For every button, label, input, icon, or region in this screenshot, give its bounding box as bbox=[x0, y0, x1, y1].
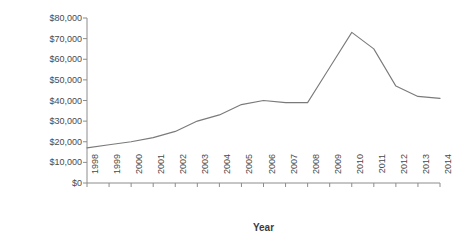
x-axis-tick-label: 2000 bbox=[135, 154, 144, 188]
x-axis-tick-label: 2003 bbox=[201, 154, 210, 188]
line-chart: Spending (in millions of dollars) $0$10,… bbox=[0, 0, 462, 241]
x-axis-tick-label: 1998 bbox=[91, 154, 100, 188]
x-axis-title: Year bbox=[87, 222, 440, 233]
x-axis-tick-label: 2010 bbox=[356, 154, 365, 188]
x-axis-tick-label: 2006 bbox=[268, 154, 277, 188]
plot-area bbox=[0, 0, 462, 241]
x-axis-tick-label: 2013 bbox=[422, 154, 431, 188]
x-axis-tick-label: 2005 bbox=[245, 154, 254, 188]
x-axis-tick-label: 2011 bbox=[378, 154, 387, 188]
spending-line-series bbox=[87, 32, 440, 147]
x-axis-tick-label: 2008 bbox=[312, 154, 321, 188]
x-axis-tick-label: 2009 bbox=[334, 154, 343, 188]
x-axis-tick-label: 1999 bbox=[113, 154, 122, 188]
x-axis-tick-label: 2001 bbox=[157, 154, 166, 188]
x-axis-tick-label: 2007 bbox=[290, 154, 299, 188]
x-axis-tick-label: 2014 bbox=[444, 154, 453, 188]
x-axis-tick-label: 2004 bbox=[223, 154, 232, 188]
x-axis-tick-label: 2002 bbox=[179, 154, 188, 188]
x-axis-tick-label: 2012 bbox=[400, 154, 409, 188]
